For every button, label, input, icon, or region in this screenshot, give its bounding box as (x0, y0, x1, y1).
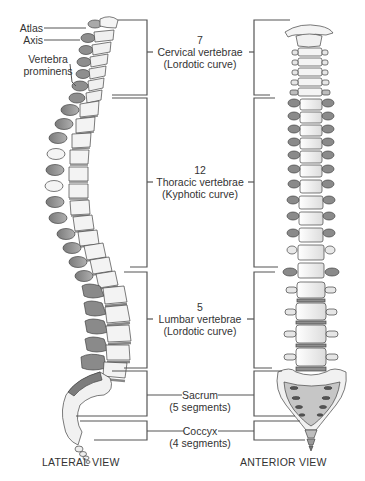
coccyx-segments: (4 segments) (150, 437, 250, 449)
lumbar-region-label: 5 Lumbar vertebrae (Lordotic curve) (150, 301, 250, 337)
coccyx-region-label: Coccyx (4 segments) (150, 425, 250, 449)
atlas-label: Atlas (0, 22, 43, 34)
lumbar-curve: (Lordotic curve) (150, 325, 250, 337)
sacrum-name: Sacrum (150, 389, 250, 401)
lumbar-name: Lumbar vertebrae (150, 313, 250, 325)
anterior-cervical-vertebrae (285, 25, 333, 96)
vertebra-prominens-line2: prominens (18, 65, 78, 77)
lateral-spine (45, 17, 131, 464)
thoracic-name: Thoracic vertebrae (150, 176, 250, 188)
thoracic-count: 12 (150, 164, 250, 176)
lumbar-count: 5 (150, 301, 250, 313)
sacrum-region-label: Sacrum (5 segments) (150, 389, 250, 413)
cervical-count: 7 (150, 34, 250, 46)
anterior-lumbar-vertebrae (284, 282, 338, 371)
anterior-spine (277, 25, 346, 451)
cervical-curve: (Lordotic curve) (150, 58, 250, 70)
sacrum-segments: (5 segments) (150, 401, 250, 413)
lateral-lumbar-vertebrae (81, 284, 131, 381)
cervical-name: Cervical vertebrae (150, 46, 250, 58)
vertebra-prominens-label: Vertebra prominens (18, 53, 78, 77)
thoracic-curve: (Kyphotic curve) (150, 188, 250, 200)
lateral-thoracic-vertebrae (45, 101, 118, 289)
axis-label: Axis (0, 34, 43, 46)
thoracic-region-label: 12 Thoracic vertebrae (Kyphotic curve) (150, 164, 250, 200)
lateral-sacrum (62, 372, 111, 445)
vertebra-prominens-line1: Vertebra (18, 53, 78, 65)
anterior-coccyx (305, 430, 317, 451)
cervical-region-label: 7 Cervical vertebrae (Lordotic curve) (150, 34, 250, 70)
lateral-view-caption: LATERAL VIEW (42, 456, 120, 468)
anterior-thoracic-vertebrae (283, 99, 339, 278)
anterior-view-caption: ANTERIOR VIEW (240, 456, 327, 468)
coccyx-name: Coccyx (150, 425, 250, 437)
